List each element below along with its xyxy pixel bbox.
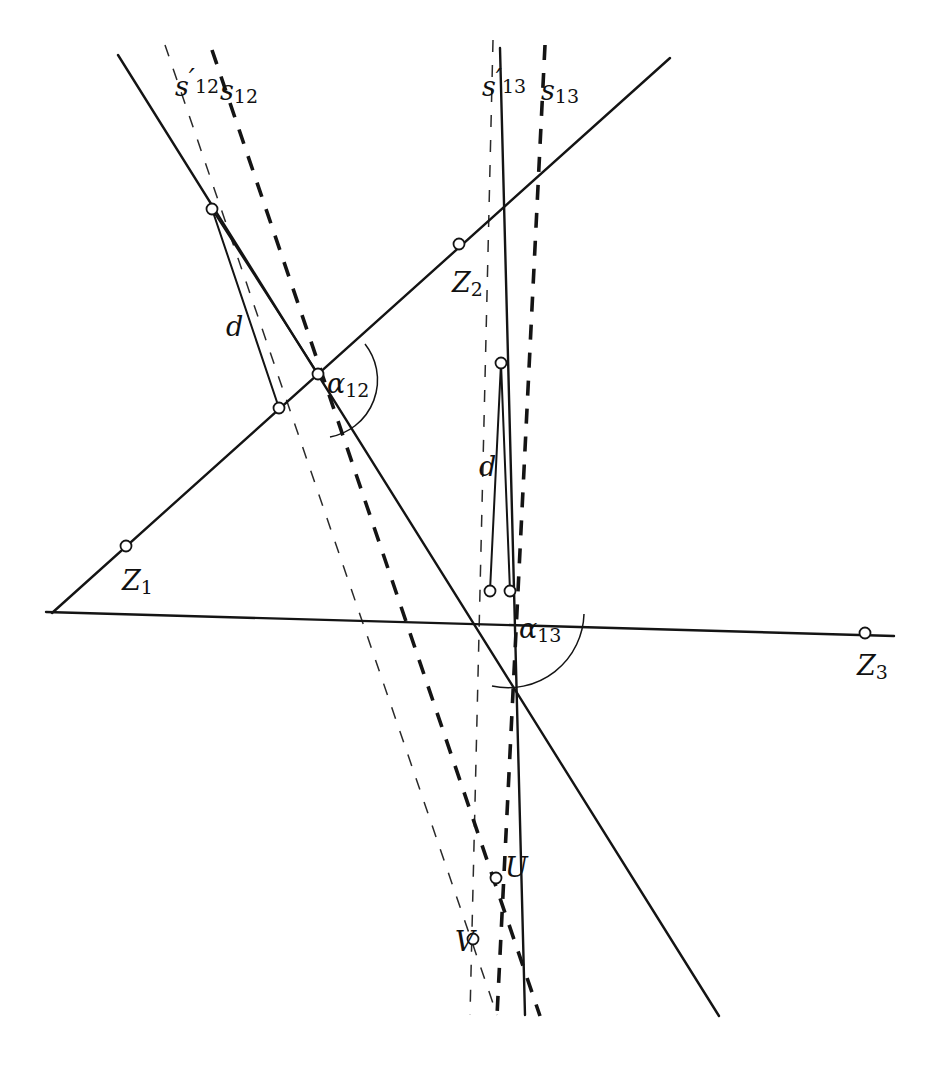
label-z3-base: Z bbox=[856, 650, 877, 681]
diagram-root: s′12 s12 s′13 s13 α12 α13 d bbox=[0, 0, 948, 1073]
node-foot-left bbox=[274, 403, 285, 414]
node-z1 bbox=[121, 541, 132, 552]
geometry-figure: s′12 s12 s′13 s13 α12 α13 d bbox=[0, 0, 948, 1073]
label-z1-base: Z bbox=[121, 565, 142, 596]
figure-background bbox=[0, 0, 948, 1073]
label-s12-prime-base: s bbox=[175, 71, 189, 102]
node-u bbox=[491, 873, 502, 884]
node-z3 bbox=[860, 628, 871, 639]
label-s12-sub: 12 bbox=[234, 85, 258, 107]
label-s12-base: s bbox=[220, 75, 234, 106]
label-s13-sub: 13 bbox=[555, 85, 579, 107]
label-s13-base: s bbox=[541, 75, 555, 106]
label-alpha12-sub: 12 bbox=[345, 379, 369, 401]
label-alpha13-base: α bbox=[519, 613, 537, 644]
label-z1-sub: 1 bbox=[141, 576, 153, 598]
node-apex-left bbox=[207, 204, 218, 215]
label-alpha13-sub: 13 bbox=[537, 624, 561, 646]
label-z2-sub: 2 bbox=[471, 278, 483, 300]
label-s13-prime-base: s bbox=[482, 71, 496, 102]
label-u: U bbox=[505, 852, 529, 883]
node-foot-right-a bbox=[485, 586, 496, 597]
node-apex-right bbox=[496, 358, 507, 369]
label-s12-prime-sub: 12 bbox=[195, 75, 219, 97]
label-s13-prime-sub: 13 bbox=[502, 75, 526, 97]
label-z3-sub: 3 bbox=[876, 661, 888, 683]
node-intersection-alpha12 bbox=[313, 369, 324, 380]
label-z2-base: Z bbox=[451, 267, 472, 298]
label-v: V bbox=[455, 926, 477, 957]
label-d-right: d bbox=[479, 451, 496, 482]
label-alpha12-base: α bbox=[327, 368, 345, 399]
label-d-left: d bbox=[226, 311, 243, 342]
node-foot-right-b bbox=[505, 586, 516, 597]
node-z2 bbox=[454, 239, 465, 250]
